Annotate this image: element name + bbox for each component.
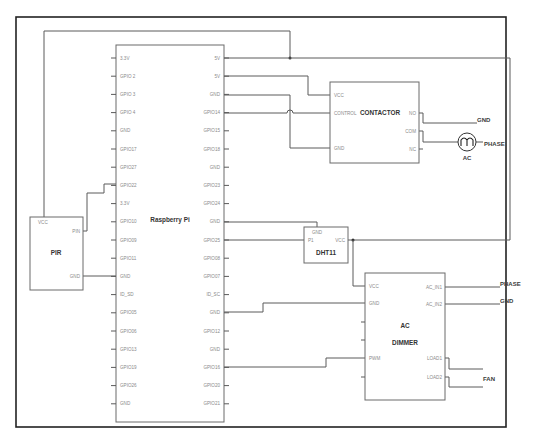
ac-source: AC bbox=[458, 133, 476, 161]
rpi-right-pin: GPIO16 bbox=[203, 365, 220, 370]
rpi-right-pin: GPIO25 bbox=[203, 238, 220, 243]
rpi-right-pin: GPIO12 bbox=[203, 329, 220, 334]
dht11-sensor: GND P1 VCC DHT11 bbox=[304, 227, 348, 263]
rpi-right-pin: GPIO23 bbox=[203, 183, 220, 188]
fan-label: FAN bbox=[483, 376, 495, 382]
ac-dimmer-pin: LOAD1 bbox=[427, 356, 443, 361]
contactor-pin: COM bbox=[405, 129, 416, 134]
rpi-left-pin: 3.3V bbox=[120, 56, 130, 61]
contactor-pin: GND bbox=[334, 146, 345, 151]
dimmer-phase-label: PHASE bbox=[500, 281, 521, 287]
wire-gpio16-pwm bbox=[224, 358, 367, 367]
pir-pin-pin: PIN bbox=[72, 229, 80, 234]
rpi-left-pin: GPIO27 bbox=[120, 165, 137, 170]
pir-title: PIR bbox=[51, 249, 62, 256]
ac-dimmer-pin: AC_IN2 bbox=[426, 302, 443, 307]
wire-contactor-no bbox=[419, 113, 477, 123]
rpi-right-pin: GPIO07 bbox=[203, 274, 220, 279]
rpi-left-pin: GPIO 4 bbox=[120, 110, 136, 115]
rpi-right-pin: GND bbox=[210, 310, 221, 315]
ac-dimmer-pin: LOAD2 bbox=[427, 375, 443, 380]
ac-dimmer-pin: VCC bbox=[369, 284, 379, 289]
rpi-left-pin: GPIO17 bbox=[120, 147, 137, 152]
rpi-left-pin: GND bbox=[120, 128, 131, 133]
rpi-right-pin: GND bbox=[210, 165, 221, 170]
contactor-phase-label: PHASE bbox=[484, 141, 505, 147]
rpi-left-pin: GND bbox=[120, 274, 131, 279]
dht11-pin-p1: P1 bbox=[308, 238, 314, 243]
pir-sensor: PIR VCC PIN GND bbox=[30, 217, 83, 290]
contactor-pin: CONTROL bbox=[334, 111, 357, 116]
contactor: CONTACTOR VCC CONTROL GND NO COM NC bbox=[330, 82, 423, 163]
wire-5v-contactor bbox=[224, 76, 330, 95]
wire-contactor-com bbox=[419, 131, 458, 142]
rpi-right-pin: GPIO21 bbox=[203, 401, 220, 406]
contactor-pin: NC bbox=[409, 147, 416, 152]
rpi-left-pin: GPIO 2 bbox=[120, 74, 136, 79]
contactor-pin: NO bbox=[409, 111, 416, 116]
rpi-left-pin: GPIO 3 bbox=[120, 92, 136, 97]
dht11-pin-gnd: GND bbox=[312, 230, 323, 235]
rpi-right-pin: GPIO24 bbox=[203, 201, 220, 206]
ac-dimmer-title: DIMMER bbox=[392, 339, 418, 346]
raspberry-pi: Raspberry Pi 3.3VGPIO 2GPIO 3GPIO 4GNDGP… bbox=[111, 45, 229, 422]
rpi-right-pin: GPIO18 bbox=[203, 147, 220, 152]
rpi-right-pin: GPIO08 bbox=[203, 256, 220, 261]
circuit-diagram: Raspberry Pi 3.3VGPIO 2GPIO 3GPIO 4GNDGP… bbox=[0, 0, 547, 448]
wire-gnd-dht11 bbox=[224, 222, 317, 227]
dht11-pin-vcc: VCC bbox=[335, 238, 345, 243]
wire-load2 bbox=[445, 377, 483, 387]
contactor-title: CONTACTOR bbox=[360, 109, 401, 116]
wire-gpio14-control bbox=[224, 110, 330, 113]
rpi-left-pin: GPIO10 bbox=[120, 219, 137, 224]
pir-pin-vcc: VCC bbox=[38, 220, 48, 225]
ac-dimmer-pin: PWM bbox=[369, 356, 380, 361]
rpi-left-pin: GPIO22 bbox=[120, 183, 137, 188]
ac-dimmer: AC DIMMER VCC GND PWM AC_IN1 AC_IN2 LOAD… bbox=[361, 273, 445, 400]
contactor-gnd-label: GND bbox=[477, 117, 491, 123]
rpi-right-pin: GND bbox=[210, 92, 221, 97]
wire-gnd-dimmer bbox=[224, 303, 367, 312]
rpi-left-pin: GPIO13 bbox=[120, 347, 137, 352]
ac-dimmer-pin: AC_IN1 bbox=[426, 285, 443, 290]
rpi-left-pin: GPIO26 bbox=[120, 383, 137, 388]
rpi-left-pin: GND bbox=[120, 401, 131, 406]
rpi-right-pin: 5V bbox=[214, 56, 221, 61]
rpi-left-pin: GPIO11 bbox=[120, 256, 137, 261]
pir-pin-gnd: GND bbox=[70, 274, 81, 279]
raspberry-pi-title: Raspberry Pi bbox=[150, 216, 190, 224]
wire-load1 bbox=[445, 358, 483, 369]
dht11-title: DHT11 bbox=[316, 249, 336, 256]
rpi-left-pin: GPIO09 bbox=[120, 238, 137, 243]
ac-source-label: AC bbox=[463, 155, 472, 161]
rpi-right-pin: 5V bbox=[214, 74, 221, 79]
ac-dimmer-title: AC bbox=[400, 322, 410, 329]
rpi-left-pin: ID_SD bbox=[120, 292, 134, 297]
wire-gnd-contactor bbox=[224, 95, 330, 148]
wire-pir-pin bbox=[83, 184, 116, 231]
rpi-right-pin: GND bbox=[210, 347, 221, 352]
rpi-right-pin: GPIO14 bbox=[203, 110, 220, 115]
rpi-right-pin: GPIO20 bbox=[203, 383, 220, 388]
rpi-left-pin: GPIO19 bbox=[120, 365, 137, 370]
ac-dimmer-pin: GND bbox=[369, 301, 380, 306]
rpi-right-pin: GND bbox=[210, 219, 221, 224]
rpi-left-pin: 3.3V bbox=[120, 201, 130, 206]
dimmer-gnd-label: GND bbox=[500, 298, 514, 304]
contactor-pin: VCC bbox=[334, 93, 344, 98]
rpi-right-pin: GPIO15 bbox=[203, 128, 220, 133]
rpi-left-pin: GPIO06 bbox=[120, 329, 137, 334]
rpi-right-pin: ID_SC bbox=[206, 292, 220, 297]
rpi-left-pin: GPIO05 bbox=[120, 310, 137, 315]
